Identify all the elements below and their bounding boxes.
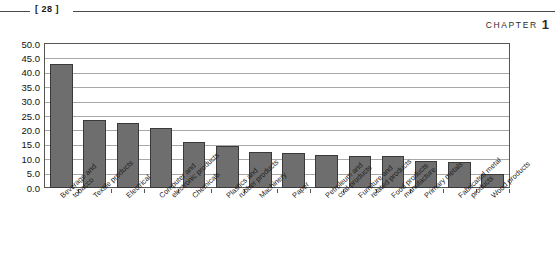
y-axis-tick-label: 40.0	[4, 68, 40, 78]
bar-slot	[144, 44, 177, 188]
header-rule-left	[0, 11, 30, 12]
x-axis-tick	[144, 189, 145, 193]
y-axis-tick-label: 35.0	[4, 83, 40, 93]
x-axis-tick	[310, 189, 311, 193]
y-axis-tick-label: 15.0	[4, 140, 40, 150]
y-axis-tick-label: 30.0	[4, 97, 40, 107]
chapter-number: 1	[542, 17, 549, 32]
x-axis-tick	[509, 189, 510, 193]
x-axis-labels: Beverage andtobaccoTextile productsElect…	[0, 194, 555, 275]
y-axis-tick-label: 50.0	[4, 40, 40, 50]
y-axis-tick-label: 5.0	[4, 169, 40, 179]
bar[interactable]	[50, 64, 73, 188]
page-header: [ 28 ] CHAPTER 1	[0, 0, 555, 34]
x-axis-tick	[211, 189, 212, 193]
y-axis-tick-label: 45.0	[4, 54, 40, 64]
y-axis-tick-label: 20.0	[4, 126, 40, 136]
x-axis-tick	[443, 189, 444, 193]
bar-slot	[45, 44, 78, 188]
x-axis-tick	[277, 189, 278, 193]
y-axis-tick-label: 0.0	[4, 184, 40, 194]
chapter-label: CHAPTER 1	[486, 17, 549, 32]
header-rule-right	[73, 11, 555, 12]
bar[interactable]	[150, 128, 173, 188]
page-folio: [ 28 ]	[35, 4, 59, 14]
bar-slot	[310, 44, 343, 188]
y-axis-tick-label: 25.0	[4, 112, 40, 122]
y-axis-tick-label: 10.0	[4, 155, 40, 165]
bar-slot	[211, 44, 244, 188]
x-axis-tick	[111, 189, 112, 193]
bar-slot	[277, 44, 310, 188]
chapter-word: CHAPTER	[486, 20, 538, 30]
bar-chart: 50.045.040.035.030.025.020.015.010.05.00…	[0, 36, 555, 275]
